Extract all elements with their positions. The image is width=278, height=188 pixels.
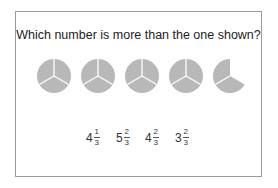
question-text: Which number is more than the one shown? xyxy=(16,28,261,42)
question-card: Which number is more than the one shown? xyxy=(15,11,262,177)
full-circle-icon xyxy=(124,58,160,94)
numerator: 2 xyxy=(153,128,157,136)
numerator: 1 xyxy=(94,128,98,136)
whole-part: 4 xyxy=(145,131,152,145)
fraction: 1 3 xyxy=(94,128,100,147)
denominator: 3 xyxy=(183,139,187,147)
option-3[interactable]: 4 2 3 xyxy=(145,128,159,147)
fraction: 2 3 xyxy=(183,128,189,147)
full-circle-icon xyxy=(36,58,72,94)
two-thirds-circle-icon xyxy=(212,58,248,94)
whole-part: 3 xyxy=(175,131,182,145)
numerator: 2 xyxy=(124,128,128,136)
denominator: 3 xyxy=(94,139,98,147)
option-1[interactable]: 4 1 3 xyxy=(86,128,100,147)
whole-part: 4 xyxy=(86,131,93,145)
option-2[interactable]: 5 2 3 xyxy=(116,128,130,147)
denominator: 3 xyxy=(153,139,157,147)
full-circle-icon xyxy=(168,58,204,94)
full-circle-icon xyxy=(80,58,116,94)
numerator: 2 xyxy=(183,128,187,136)
option-4[interactable]: 3 2 3 xyxy=(175,128,189,147)
denominator: 3 xyxy=(124,139,128,147)
fraction: 2 3 xyxy=(153,128,159,147)
answer-options: 4 1 3 5 2 3 4 2 3 3 xyxy=(16,128,261,152)
whole-part: 5 xyxy=(116,131,123,145)
fraction: 2 3 xyxy=(124,128,130,147)
fraction-circles xyxy=(16,58,261,98)
